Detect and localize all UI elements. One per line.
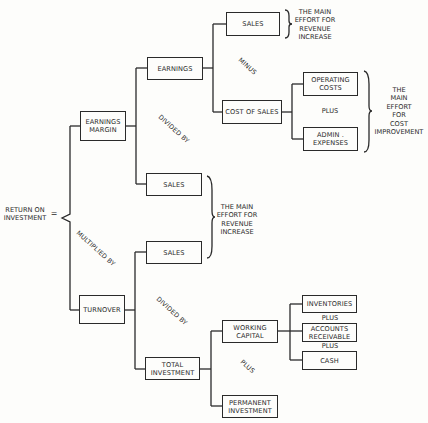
equals-sign: = — [50, 210, 58, 218]
node-inventories: INVENTORIES — [302, 295, 357, 313]
annotation-revenue-top: THE MAIN EFFORT FOR REVENUE INCREASE — [292, 8, 338, 42]
node-turnover: TURNOVER — [79, 295, 125, 324]
root-bracket — [62, 126, 70, 310]
node-accounts-receivable: ACCOUNTS RECEIVABLE — [302, 323, 357, 342]
node-total-investment: TOTAL INVESTMENT — [145, 357, 200, 380]
node-admin-expenses: ADMIN . EXPENSES — [303, 127, 358, 151]
annotation-revenue-mid: THE MAIN EFFORT FOR REVENUE INCREASE — [214, 203, 260, 237]
node-working-capital: WORKING CAPITAL — [222, 320, 278, 343]
node-operating-costs: OPERATING COSTS — [303, 72, 358, 96]
node-earnings-margin: EARNINGS MARGIN — [80, 111, 126, 141]
node-cash: CASH — [302, 351, 357, 370]
annotation-cost-improvement: THE MAIN EFFORT FOR COST IMPROVEMENT — [371, 86, 427, 136]
operator-plus-inventories: PLUS — [315, 314, 345, 322]
node-cost-of-sales: COST OF SALES — [222, 100, 282, 124]
operator-plus-costs: PLUS — [315, 107, 345, 115]
node-sales-margin-divisor: SALES — [146, 173, 202, 196]
node-sales-top: SALES — [226, 12, 280, 36]
roi-tree-diagram: RETURN ON INVESTMENT = EARNINGS MARGIN E… — [0, 0, 428, 423]
node-sales-turnover: SALES — [146, 241, 202, 264]
root-return-on-investment: RETURN ON INVESTMENT — [1, 206, 49, 223]
brace-revenue-top — [285, 10, 292, 38]
node-earnings: EARNINGS — [147, 57, 203, 80]
node-permanent-investment: PERMANENT INVESTMENT — [222, 395, 278, 418]
operator-plus-receivables: PLUS — [315, 342, 345, 350]
